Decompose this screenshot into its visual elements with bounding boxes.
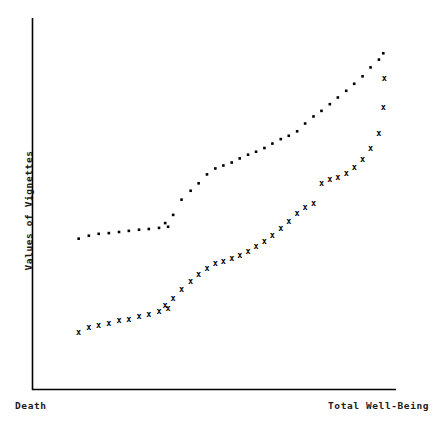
data-point-dot xyxy=(304,122,307,125)
data-point-cross: x xyxy=(96,320,101,330)
data-point-dot xyxy=(287,134,290,137)
data-point-dot xyxy=(128,230,131,233)
data-point-dot xyxy=(77,237,80,240)
data-point-dot xyxy=(167,225,170,228)
data-point-cross: x xyxy=(213,258,218,268)
data-point-cross: x xyxy=(163,300,168,310)
data-point-dot xyxy=(369,66,372,69)
data-point-dot xyxy=(214,167,217,170)
data-point-cross: x xyxy=(86,322,91,332)
data-point-cross: x xyxy=(311,198,316,208)
data-point-dot xyxy=(172,214,175,217)
data-point-dot xyxy=(197,182,200,185)
data-point-dot xyxy=(180,198,183,201)
data-point-cross: x xyxy=(327,174,332,184)
data-point-dot xyxy=(361,75,364,78)
data-point-dot xyxy=(97,233,100,236)
data-point-dot xyxy=(353,82,356,85)
data-point-cross: x xyxy=(171,293,176,303)
data-point-cross: x xyxy=(319,178,324,188)
data-point-dot xyxy=(345,90,348,93)
data-point-cross: x xyxy=(136,311,141,321)
data-point-dot xyxy=(108,232,111,235)
data-point-dot xyxy=(189,189,192,192)
scatter-chart-figure: xxxxxxxxxxxxxxxxxxxxxxxxxxxxxxxxxxxxxxx … xyxy=(0,0,439,426)
data-point-cross: x xyxy=(196,269,201,279)
data-point-cross: x xyxy=(204,263,209,273)
data-point-cross: x xyxy=(221,256,226,266)
series-cross-series: xxxxxxxxxxxxxxxxxxxxxxxxxxxxxxxxxxxxxxx xyxy=(76,73,387,337)
data-point-cross: x xyxy=(146,309,151,319)
data-point-dot xyxy=(329,103,332,106)
data-point-cross: x xyxy=(245,246,250,256)
data-point-cross: x xyxy=(303,202,308,212)
data-point-dot xyxy=(320,110,323,113)
data-point-dot xyxy=(255,150,258,153)
x-axis-right-label: Total Well-Being xyxy=(328,400,429,411)
data-point-dot xyxy=(337,96,340,99)
axes-group xyxy=(32,18,396,390)
data-point-dot xyxy=(271,142,274,145)
data-point-dot xyxy=(296,130,299,133)
data-point-dot xyxy=(247,153,250,156)
data-point-cross: x xyxy=(335,172,340,182)
data-point-dot xyxy=(148,228,151,231)
y-axis-label: Values of Vignettes xyxy=(23,131,34,291)
series-dotted-series xyxy=(77,52,384,240)
data-point-dot xyxy=(164,222,167,225)
data-point-cross: x xyxy=(126,314,131,324)
data-point-dot xyxy=(88,234,91,237)
data-point-cross: x xyxy=(295,208,300,218)
data-point-cross: x xyxy=(376,128,381,138)
data-point-dot xyxy=(206,173,209,176)
x-axis-left-label: Death xyxy=(15,400,47,411)
data-point-dot xyxy=(222,164,225,167)
data-point-cross: x xyxy=(382,73,387,83)
data-point-dot xyxy=(263,147,266,150)
data-point-cross: x xyxy=(156,306,161,316)
data-point-dot xyxy=(378,58,381,61)
data-point-cross: x xyxy=(116,315,121,325)
plot-area: xxxxxxxxxxxxxxxxxxxxxxxxxxxxxxxxxxxxxxx xyxy=(0,0,439,426)
data-point-cross: x xyxy=(106,318,111,328)
data-point-cross: x xyxy=(179,284,184,294)
data-point-cross: x xyxy=(237,250,242,260)
data-point-dot xyxy=(138,228,141,231)
data-point-cross: x xyxy=(381,102,386,112)
data-point-cross: x xyxy=(352,162,357,172)
data-point-cross: x xyxy=(368,143,373,153)
data-point-dot xyxy=(382,52,385,55)
data-point-cross: x xyxy=(253,241,258,251)
data-point-dot xyxy=(279,138,282,141)
data-point-cross: x xyxy=(278,223,283,233)
data-point-cross: x xyxy=(270,230,275,240)
data-point-cross: x xyxy=(344,168,349,178)
data-point-cross: x xyxy=(262,236,267,246)
data-point-dot xyxy=(230,161,233,164)
data-point-dot xyxy=(118,231,121,234)
data-point-cross: x xyxy=(360,154,365,164)
data-point-cross: x xyxy=(229,253,234,263)
data-point-cross: x xyxy=(76,327,81,337)
data-point-cross: x xyxy=(188,276,193,286)
data-point-dot xyxy=(312,115,315,118)
data-point-dot xyxy=(238,157,241,160)
data-point-cross: x xyxy=(286,216,291,226)
data-point-dot xyxy=(158,227,161,230)
